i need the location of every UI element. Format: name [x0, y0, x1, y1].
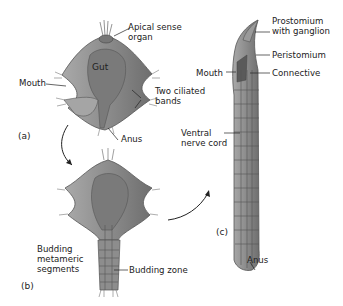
label-budding-line1: Budding [37, 244, 84, 254]
juvenile-worm-illustration [224, 20, 270, 271]
label-peristomium: Peristomium [272, 50, 326, 60]
label-gut: Gut [92, 62, 108, 72]
arrow-b-to-c [168, 193, 208, 220]
label-budding-metameric-segments: Budding metameric segments [37, 244, 84, 274]
panel-label-c: (c) [216, 227, 228, 237]
panel-label-a: (a) [18, 131, 31, 141]
label-anus-c: Anus [247, 255, 268, 265]
label-connective: Connective [272, 68, 320, 78]
label-prostomium-with-ganglion: Prostomium with ganglion [272, 16, 330, 36]
label-apical-line2: organ [128, 32, 182, 42]
label-apical-line1: Apical sense [128, 22, 182, 32]
label-mouth-c: Mouth [196, 68, 223, 78]
label-anus-a: Anus [121, 134, 142, 144]
label-apical-sense-organ: Apical sense organ [128, 22, 182, 42]
label-budding-line2: metameric [37, 254, 84, 264]
label-mouth-a: Mouth [19, 78, 46, 88]
label-budding-zone: Budding zone [129, 265, 188, 275]
annelid-development-diagram: Apical sense organ Gut Mouth Two ciliate… [0, 0, 343, 306]
label-ventral-line1: Ventral [181, 128, 227, 138]
label-ciliated-line1: Two ciliated [155, 86, 205, 96]
label-ventral-nerve-cord: Ventral nerve cord [181, 128, 227, 148]
label-ventral-line2: nerve cord [181, 138, 227, 148]
label-budding-line3: segments [37, 264, 84, 274]
arrow-a-to-b [62, 125, 72, 165]
label-two-ciliated-bands: Two ciliated bands [155, 86, 205, 106]
label-ciliated-line2: bands [155, 96, 205, 106]
label-prostomium-line2: with ganglion [272, 26, 330, 36]
panel-label-b: (b) [21, 281, 34, 291]
label-prostomium-line1: Prostomium [272, 16, 330, 26]
